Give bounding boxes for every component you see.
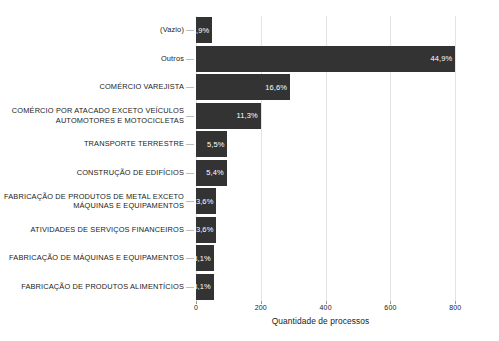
category-label: COMÉRCIO VAREJISTA: [0, 73, 184, 102]
x-tick-label: 200: [255, 304, 267, 311]
bar-value-label: 3,6%: [196, 226, 217, 234]
bar-value-label: 44,9%: [431, 55, 456, 63]
category-label-text: CONSTRUÇÃO DE EDIFÍCIOS: [77, 168, 184, 178]
category-label: TRANSPORTE TERRESTRE: [0, 130, 184, 159]
bar-value-label: 11,3%: [237, 112, 261, 120]
bar[interactable]: 5,5%: [196, 131, 227, 157]
plot-area: 2,9%44,9%16,6%11,3%5,5%5,4%3,6%3,6%3,1%3…: [196, 16, 478, 301]
bar[interactable]: 3,6%: [196, 188, 216, 214]
x-tick-label: 800: [449, 304, 461, 311]
category-label-text: FABRICAÇÃO DE PRODUTOS ALIMENTÍCIOS: [21, 282, 184, 292]
x-tick-label: 0: [194, 304, 198, 311]
x-axis-title-text: Quantidade de processos: [272, 316, 370, 326]
bar-row: 3,6%: [196, 217, 216, 243]
bar-row: 16,6%: [196, 74, 290, 100]
bar[interactable]: 16,6%: [196, 74, 290, 100]
category-label: ATIVIDADES DE SERVIÇOS FINANCEIROS: [0, 216, 184, 245]
bar-value-label: 2,9%: [192, 27, 213, 35]
category-label-text: Outros: [161, 54, 184, 64]
category-label-text: (Vazio): [160, 25, 184, 35]
category-tick-mark: [186, 87, 194, 88]
bar[interactable]: 44,9%: [196, 46, 455, 72]
category-tick-mark: [186, 230, 194, 231]
bar-value-label: 5,4%: [206, 169, 227, 177]
bar-chart: 2,9%44,9%16,6%11,3%5,5%5,4%3,6%3,6%3,1%3…: [0, 0, 499, 341]
bar[interactable]: 3,1%: [196, 274, 214, 300]
category-tick-mark: [186, 173, 194, 174]
bar-value-label: 3,1%: [193, 283, 214, 291]
category-tick-mark: [186, 258, 194, 259]
bar-value-label: 3,1%: [193, 255, 214, 263]
category-tick-mark: [186, 116, 194, 117]
bar-row: 3,1%: [196, 245, 214, 271]
category-label-text: COMÉRCIO VAREJISTA: [99, 82, 184, 92]
category-label: FABRICAÇÃO DE MÁQUINAS E EQUIPAMENTOS: [0, 244, 184, 273]
bar-row: 2,9%: [196, 17, 212, 43]
category-label: FABRICAÇÃO DE PRODUTOS DE METAL EXCETO M…: [0, 187, 184, 216]
bar-row: 3,6%: [196, 188, 216, 214]
bar-row: 3,1%: [196, 274, 214, 300]
bar-value-label: 3,6%: [196, 198, 217, 206]
category-label-text: ATIVIDADES DE SERVIÇOS FINANCEIROS: [31, 225, 185, 235]
category-tick-mark: [186, 201, 194, 202]
bar[interactable]: 3,6%: [196, 217, 216, 243]
category-tick-mark: [186, 59, 194, 60]
bar-row: 11,3%: [196, 103, 261, 129]
category-label-text: FABRICAÇÃO DE MÁQUINAS E EQUIPAMENTOS: [9, 253, 184, 263]
bar[interactable]: 2,9%: [196, 17, 212, 43]
category-tick-mark: [186, 287, 194, 288]
category-label: (Vazio): [0, 16, 184, 45]
category-label: Outros: [0, 45, 184, 74]
bar-row: 5,5%: [196, 131, 227, 157]
x-tick-label: 600: [384, 304, 396, 311]
category-label-text: COMÉRCIO POR ATACADO EXCETO VEÍCULOS AUT…: [12, 106, 184, 125]
bar-value-label: 16,6%: [265, 84, 290, 92]
bar-row: 44,9%: [196, 46, 455, 72]
category-label-text: TRANSPORTE TERRESTRE: [84, 139, 184, 149]
category-tick-mark: [186, 144, 194, 145]
bar-row: 5,4%: [196, 160, 227, 186]
x-axis-title: Quantidade de processos: [0, 316, 499, 326]
bar[interactable]: 3,1%: [196, 245, 214, 271]
bar[interactable]: 5,4%: [196, 160, 227, 186]
category-tick-mark: [186, 30, 194, 31]
x-tick-label: 400: [320, 304, 332, 311]
bar[interactable]: 11,3%: [196, 103, 261, 129]
category-label: FABRICAÇÃO DE PRODUTOS ALIMENTÍCIOS: [0, 273, 184, 302]
gridline: [455, 16, 456, 301]
category-label-text: FABRICAÇÃO DE PRODUTOS DE METAL EXCETO M…: [4, 192, 184, 211]
category-label: CONSTRUÇÃO DE EDIFÍCIOS: [0, 159, 184, 188]
category-label: COMÉRCIO POR ATACADO EXCETO VEÍCULOS AUT…: [0, 102, 184, 131]
bar-value-label: 5,5%: [207, 141, 228, 149]
